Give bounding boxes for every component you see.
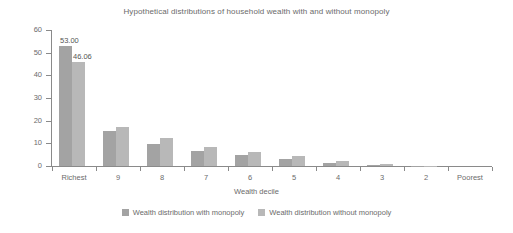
x-tick-mark (404, 167, 405, 171)
y-tick-mark (46, 30, 51, 31)
legend-label: Wealth distribution with monopoly (133, 208, 245, 217)
chart-container: Hypothetical distributions of household … (0, 0, 513, 233)
y-tick-label: 20 (20, 117, 42, 125)
bar-value-label: 53.00 (60, 37, 79, 45)
chart-title: Hypothetical distributions of household … (0, 7, 513, 16)
bar (279, 159, 292, 166)
x-tick-mark (448, 167, 449, 171)
legend-item[interactable]: Wealth distribution with monopoly (122, 208, 245, 217)
bar (191, 151, 204, 166)
legend-item[interactable]: Wealth distribution without monopoly (258, 208, 391, 217)
bar (380, 164, 393, 166)
bar (59, 46, 72, 166)
bar (160, 138, 173, 166)
y-tick-label: 40 (20, 71, 42, 79)
bar (204, 147, 217, 166)
bar-value-label: 46.06 (73, 53, 92, 61)
y-tick-mark (46, 98, 51, 99)
bar (323, 163, 336, 166)
bar (72, 62, 85, 166)
x-axis-title: Wealth decile (0, 187, 513, 196)
y-tick-label: 50 (20, 49, 42, 57)
y-tick-mark (46, 143, 51, 144)
legend-swatch-icon (122, 209, 129, 216)
x-tick-mark (184, 167, 185, 171)
x-tick-mark (316, 167, 317, 171)
bar (292, 156, 305, 166)
x-tick-label: Poorest (440, 173, 500, 182)
x-tick-mark (228, 167, 229, 171)
chart-legend: Wealth distribution with monopolyWealth … (0, 208, 513, 217)
bar (235, 155, 248, 166)
x-tick-mark (140, 167, 141, 171)
x-tick-mark (360, 167, 361, 171)
y-tick-mark (46, 75, 51, 76)
y-tick-mark (46, 53, 51, 54)
y-tick-label: 60 (20, 26, 42, 34)
x-tick-mark (492, 167, 493, 171)
x-tick-mark (96, 167, 97, 171)
plot-area: 53.0046.06 (52, 30, 492, 166)
bar (248, 152, 261, 166)
y-tick-label: 10 (20, 139, 42, 147)
bar (336, 161, 349, 166)
x-tick-mark (272, 167, 273, 171)
bar (116, 127, 129, 166)
legend-label: Wealth distribution without monopoly (269, 208, 391, 217)
bar (103, 131, 116, 166)
x-tick-mark (52, 167, 53, 171)
y-tick-mark (46, 166, 51, 167)
legend-swatch-icon (258, 209, 265, 216)
bar (367, 165, 380, 166)
y-tick-mark (46, 121, 51, 122)
y-tick-label: 30 (20, 94, 42, 102)
bar (147, 144, 160, 166)
y-tick-label: 0 (20, 162, 42, 170)
